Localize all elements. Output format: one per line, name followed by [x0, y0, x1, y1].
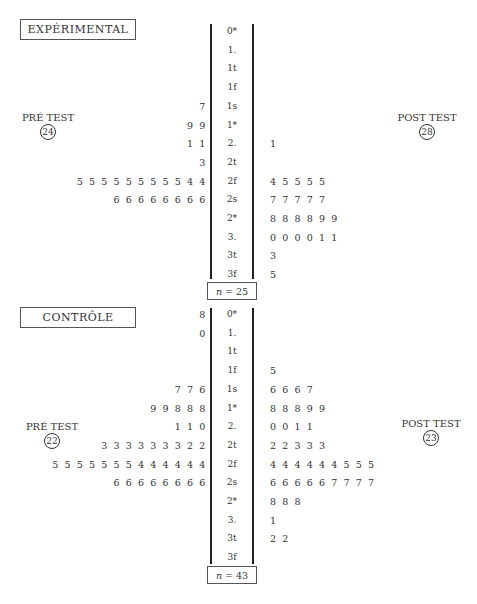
post-leaves: 6 6 6 7 — [270, 384, 314, 395]
post-leaves: 6 6 6 6 6 7 7 7 7 — [270, 477, 376, 488]
stem-row: 1t — [0, 346, 477, 365]
stem: 3t — [212, 533, 252, 543]
post-leaves: 8 8 8 9 9 — [270, 403, 327, 414]
n-value: = 25 — [222, 286, 248, 297]
stem-row: 1 1 02.0 0 1 1 — [0, 421, 477, 440]
post-leaves: 0 0 1 1 — [270, 421, 314, 432]
stem-row: 80* — [0, 309, 477, 328]
pre-leaves: 7 7 6 — [175, 384, 207, 395]
pre-leaves: 9 9 — [187, 120, 207, 131]
pre-leaves: 3 3 3 3 3 3 3 2 2 — [101, 440, 207, 451]
stem-row: 0* — [0, 26, 477, 45]
pre-leaves: 6 6 6 6 6 6 6 6 — [114, 194, 208, 205]
n-value: = 43 — [222, 570, 248, 581]
stem-row: 71s — [0, 101, 477, 120]
pre-leaves: 1 1 — [187, 138, 207, 149]
post-leaves: 8 8 8 — [270, 496, 302, 507]
experimental-sample-size: n = 25 — [207, 282, 257, 300]
pre-leaves: 9 9 8 8 8 — [150, 403, 207, 414]
stem: 3. — [212, 232, 252, 242]
stem-row: 1t — [0, 63, 477, 82]
stem: 3f — [212, 552, 252, 562]
stem: 0* — [212, 309, 252, 319]
stem: 2t — [212, 440, 252, 450]
stem-row: 3.0 0 0 0 1 1 — [0, 232, 477, 251]
stem-row: 01. — [0, 328, 477, 347]
stem-row: 3t3 — [0, 250, 477, 269]
stem: 2s — [212, 477, 252, 487]
stem-row: 2*8 8 8 8 9 9 — [0, 213, 477, 232]
post-leaves: 4 5 5 5 5 — [270, 176, 327, 187]
stem-row: 1f5 — [0, 365, 477, 384]
stem-row: 2*8 8 8 — [0, 496, 477, 515]
stem: 1t — [212, 346, 252, 356]
control-sample-size: n = 43 — [207, 566, 257, 584]
stem-row: 32t — [0, 157, 477, 176]
pre-leaves: 0 — [199, 328, 207, 339]
stem: 3f — [212, 269, 252, 279]
stem: 1s — [212, 384, 252, 394]
stem: 2* — [212, 213, 252, 223]
pre-leaves: 6 6 6 6 6 6 6 6 — [114, 477, 208, 488]
stem-row: 1f — [0, 82, 477, 101]
stem: 1f — [212, 365, 252, 375]
pre-leaves: 1 1 0 — [175, 421, 207, 432]
pre-leaves: 7 — [199, 101, 207, 112]
stem: 2. — [212, 421, 252, 431]
stem: 1* — [212, 403, 252, 413]
post-leaves: 8 8 8 8 9 9 — [270, 213, 339, 224]
stem-row: 9 9 8 8 81*8 8 8 9 9 — [0, 403, 477, 422]
stem: 3. — [212, 515, 252, 525]
stem-row: 5 5 5 5 5 5 5 5 5 4 42f4 5 5 5 5 — [0, 176, 477, 195]
stem: 0* — [212, 26, 252, 36]
stem: 1. — [212, 328, 252, 338]
stem-row: 6 6 6 6 6 6 6 62s6 6 6 6 6 7 7 7 7 — [0, 477, 477, 496]
post-leaves: 1 — [270, 138, 278, 149]
stem: 1f — [212, 82, 252, 92]
post-leaves: 0 0 0 0 1 1 — [270, 232, 339, 243]
stem-row: 9 91* — [0, 120, 477, 139]
post-leaves: 3 — [270, 250, 278, 261]
post-leaves: 2 2 3 3 3 — [270, 440, 327, 451]
stem: 1. — [212, 45, 252, 55]
stem-row: 3t2 2 — [0, 533, 477, 552]
stem: 1s — [212, 101, 252, 111]
stem: 1* — [212, 120, 252, 130]
pre-leaves: 3 — [199, 157, 207, 168]
post-leaves: 4 4 4 4 4 4 5 5 5 — [270, 459, 376, 470]
stem: 2* — [212, 496, 252, 506]
post-leaves: 5 — [270, 365, 278, 376]
post-leaves: 1 — [270, 515, 278, 526]
post-leaves: 7 7 7 7 7 — [270, 194, 327, 205]
stem: 1t — [212, 63, 252, 73]
stem-row: 3 3 3 3 3 3 3 2 22t2 2 3 3 3 — [0, 440, 477, 459]
stem: 2t — [212, 157, 252, 167]
stem-row: 3.1 — [0, 515, 477, 534]
stem-row: 7 7 61s6 6 6 7 — [0, 384, 477, 403]
stem: 2f — [212, 459, 252, 469]
post-leaves: 5 — [270, 269, 278, 280]
pre-leaves: 8 — [199, 309, 207, 320]
stem: 3t — [212, 250, 252, 260]
stem-row: 5 5 5 5 5 5 5 4 4 4 4 4 42f4 4 4 4 4 4 5… — [0, 459, 477, 478]
pre-leaves: 5 5 5 5 5 5 5 5 5 4 4 — [77, 176, 207, 187]
stem: 2s — [212, 194, 252, 204]
post-leaves: 2 2 — [270, 533, 290, 544]
stem-row: 6 6 6 6 6 6 6 62s7 7 7 7 7 — [0, 194, 477, 213]
pre-leaves: 5 5 5 5 5 5 5 4 4 4 4 4 4 — [52, 459, 207, 470]
stem: 2. — [212, 138, 252, 148]
stem-row: 1. — [0, 45, 477, 64]
stem: 2f — [212, 176, 252, 186]
stem-row: 1 12.1 — [0, 138, 477, 157]
